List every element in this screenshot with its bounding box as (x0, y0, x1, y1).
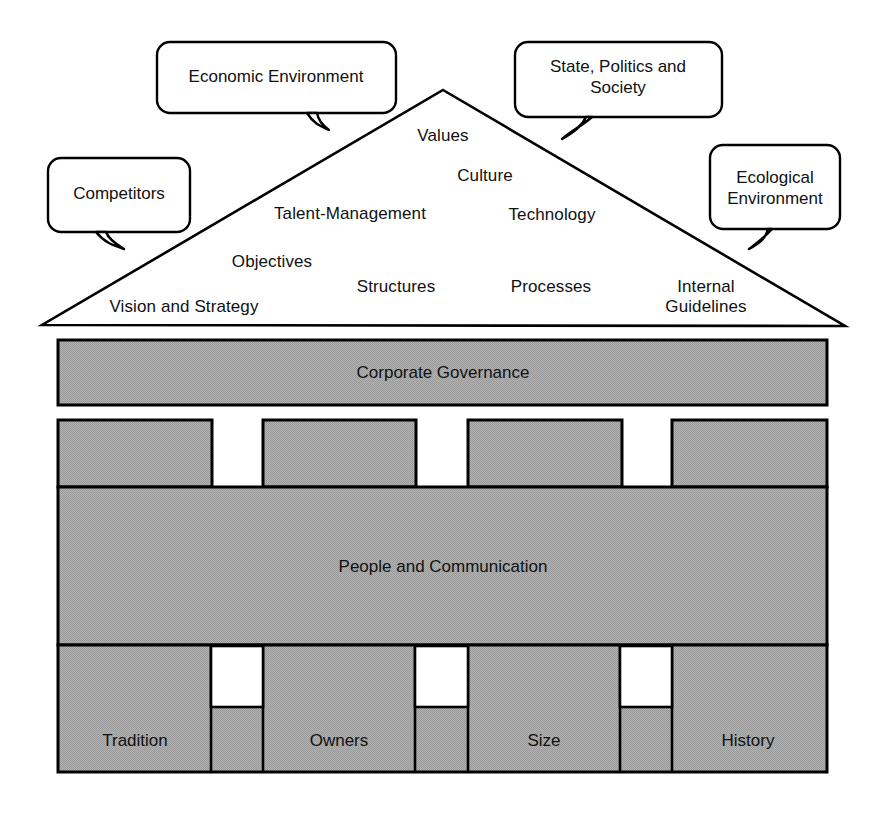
pillar-label-size: Size (474, 731, 614, 751)
pillar-block-1 (58, 420, 212, 487)
house-model-diagram: Economic Environment Competitors State, … (0, 0, 884, 813)
pillar-block-3 (468, 420, 622, 487)
roof-label-values: Values (417, 126, 468, 146)
pillar-label-tradition: Tradition (65, 731, 205, 751)
pillar-block-4 (672, 420, 827, 487)
roof-label-internal-guidelines: Internal Guidelines (654, 277, 758, 318)
roof-label-technology: Technology (508, 205, 595, 225)
pillar-label-history: History (678, 731, 818, 751)
pillar-block-2 (263, 420, 416, 487)
foundation-window-2 (415, 646, 468, 707)
callout-economic-environment-label: Economic Environment (161, 67, 391, 88)
band-label-people-and-communication: People and Communication (233, 557, 653, 577)
foundation-window-1 (211, 646, 263, 707)
roof-label-structures: Structures (357, 277, 435, 297)
callout-competitors-label: Competitors (51, 184, 187, 205)
roof-label-processes: Processes (511, 277, 591, 297)
roof-label-objectives: Objectives (232, 252, 312, 272)
band-label-corporate-governance: Corporate Governance (243, 363, 643, 383)
foundation-window-3 (620, 646, 672, 707)
roof-label-talent-management: Talent-Management (274, 204, 426, 224)
roof-label-vision-and-strategy: Vision and Strategy (109, 297, 258, 317)
pillar-label-owners: Owners (269, 731, 409, 751)
diagram-canvas (0, 0, 884, 813)
roof-label-culture: Culture (457, 166, 513, 186)
callout-state-politics-society-label: State, Politics and Society (525, 57, 711, 98)
callout-ecological-environment-label: Ecological Environment (714, 168, 836, 209)
